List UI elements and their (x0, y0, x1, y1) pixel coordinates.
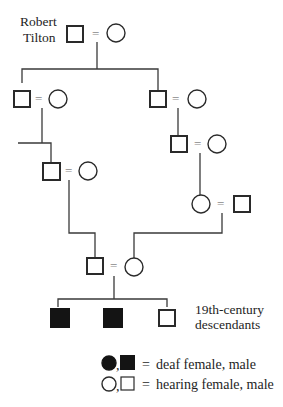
founder-name-line2: Tilton (23, 30, 56, 45)
gen4-female-symbol (192, 195, 210, 213)
marriage-symbol: = (65, 163, 72, 178)
gen3-left-male-symbol (43, 163, 60, 180)
legend-deaf-male-icon (121, 356, 134, 369)
gen2-right-male-symbol (150, 91, 166, 107)
legend-hearing-text: hearing female, male (156, 377, 274, 392)
marriage-symbol: = (110, 258, 117, 273)
gen5-male-symbol (87, 258, 103, 274)
gen6-sibship-line (58, 299, 167, 307)
gen4-male-symbol (234, 196, 250, 212)
gen3-left-sibship-line (18, 143, 51, 162)
gen3-left-female-symbol (79, 162, 97, 180)
marriage-symbol: = (217, 196, 224, 211)
marriage-symbol: = (194, 136, 201, 151)
legend: , = deaf female, male , = hearing female… (102, 356, 274, 394)
legend-separator: , (116, 358, 120, 373)
legend-separator: , (116, 379, 120, 394)
descendants-label-line1: 19th-century (195, 302, 264, 317)
gen3-right-female-symbol (208, 135, 226, 153)
legend-hearing-male-icon (121, 377, 134, 390)
descendants-label-line2: descendants (195, 317, 260, 332)
gen2-left-male-symbol (14, 91, 30, 107)
gen2-sibship-line (22, 69, 158, 91)
gen4-descent-line (134, 213, 222, 258)
founder-name-line1: Robert (20, 14, 57, 29)
gen3-right-male-symbol (171, 136, 187, 152)
legend-deaf-female-icon (102, 356, 116, 370)
gen3-left-descent-line (69, 180, 95, 257)
legend-equals: = (142, 357, 150, 372)
robert-tilton-male-symbol (67, 26, 83, 42)
gen2-right-female-symbol (188, 90, 206, 108)
gen1-spouse-female-symbol (107, 24, 125, 42)
marriage-symbol: = (172, 91, 179, 106)
gen5-female-symbol (125, 258, 143, 276)
gen6-deaf-male-1-symbol (51, 309, 69, 327)
gen2-left-female-symbol (49, 90, 67, 108)
marriage-symbol: = (92, 26, 99, 41)
legend-deaf-text: deaf female, male (156, 357, 256, 372)
gen6-hearing-male-symbol (159, 310, 175, 326)
legend-hearing-female-icon (102, 377, 116, 391)
legend-equals: = (142, 377, 150, 392)
gen6-deaf-male-2-symbol (104, 309, 122, 327)
pedigree-diagram: Robert Tilton = = = = = = = 19th-century… (0, 0, 283, 407)
marriage-symbol: = (35, 91, 42, 106)
